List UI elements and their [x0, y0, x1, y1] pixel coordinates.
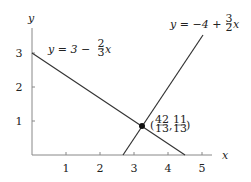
intersection-label: ( 42 13 , 11 13 ) — [150, 113, 190, 135]
y-tick-label: 1 — [16, 115, 23, 128]
svg-text:y = 3 −: y = 3 − — [47, 43, 90, 56]
x-tick-label: 2 — [97, 162, 104, 175]
x-tick-label: 4 — [165, 162, 172, 175]
svg-text:,: , — [169, 119, 173, 132]
line-increasing — [123, 35, 203, 155]
label-line-2: y = −4 + 3 2 x — [169, 12, 240, 34]
x-axis-label: x — [222, 149, 229, 162]
y-tick-label: 3 — [16, 47, 23, 60]
x-tick-label: 1 — [63, 162, 70, 175]
svg-text:13: 13 — [173, 122, 187, 135]
x-tick-label: 3 — [131, 162, 138, 175]
svg-text:13: 13 — [155, 122, 169, 135]
svg-text:y = −4 +: y = −4 + — [169, 18, 221, 31]
line-decreasing — [32, 53, 185, 155]
chart: 1 2 3 4 5 1 2 3 y x y = 3 − 2 3 x y = −4… — [0, 0, 251, 182]
svg-text:x: x — [233, 18, 240, 31]
label-line-1: y = 3 − 2 3 x — [47, 37, 112, 59]
intersection-point — [139, 123, 145, 129]
y-axis-label: y — [27, 12, 35, 25]
y-tick-label: 2 — [16, 81, 23, 94]
svg-text:3: 3 — [98, 46, 105, 59]
x-tick-label: 5 — [199, 162, 206, 175]
svg-text:(: ( — [150, 119, 154, 132]
svg-text:): ) — [186, 119, 190, 132]
svg-text:2: 2 — [226, 21, 233, 34]
svg-text:x: x — [105, 43, 112, 56]
